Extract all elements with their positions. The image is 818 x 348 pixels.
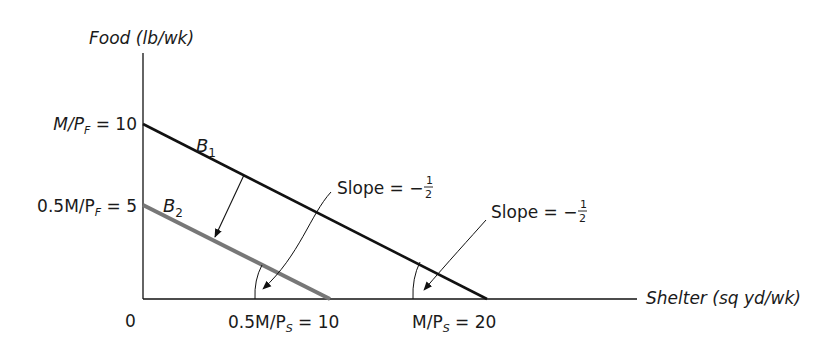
shift-arrow <box>215 175 244 237</box>
budget-line-b2 <box>143 205 330 299</box>
slope-label-b2: Slope = − 1 2 <box>337 174 433 201</box>
svg-text:1: 1 <box>426 174 433 187</box>
slope-arrow-b1 <box>424 220 486 290</box>
ytick-half-mpf-5: 0.5M/PF = 5 <box>37 196 137 219</box>
xtick-half-mps-10: 0.5M/PS = 10 <box>228 312 339 335</box>
svg-text:2: 2 <box>579 212 586 225</box>
slope-label-b1: Slope = − 1 2 <box>491 198 587 225</box>
svg-text:1: 1 <box>580 198 587 211</box>
angle-arc-b2 <box>255 265 262 299</box>
svg-text:Slope = −: Slope = − <box>491 202 577 222</box>
budget-line-b1 <box>143 124 487 299</box>
origin-label: 0 <box>125 311 136 331</box>
ytick-mpf-10: M/PF = 10 <box>53 114 137 137</box>
svg-text:2: 2 <box>425 188 432 201</box>
angle-arc-b1 <box>413 262 420 299</box>
budget-line-chart: Food (lb/wk) Shelter (sq yd/wk) 0 M/PF =… <box>0 0 818 348</box>
slope-arrow-b2 <box>263 192 331 289</box>
xtick-mps-20: M/PS = 20 <box>412 312 496 335</box>
svg-text:Slope = −: Slope = − <box>337 178 423 198</box>
y-axis-title: Food (lb/wk) <box>89 28 194 48</box>
x-axis-title: Shelter (sq yd/wk) <box>646 288 801 308</box>
